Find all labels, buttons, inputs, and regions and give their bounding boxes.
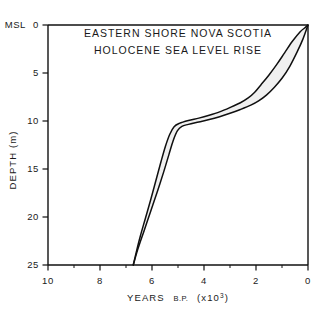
chart-title-line-2: HOLOCENE SEA LEVEL RISE	[94, 44, 262, 56]
y-tick-label-20: 20	[27, 211, 39, 222]
x-tick-label-10: 10	[42, 275, 54, 286]
y-axis-title: DEPTH (m)	[7, 131, 18, 190]
chart-figure: 1086420 0510152025 MSL DEPTH (m) YEARS B…	[0, 0, 328, 312]
y-tick-label-0: 0	[33, 19, 39, 30]
y-tick-label-10: 10	[27, 115, 39, 126]
x-tick-label-2: 2	[253, 275, 259, 286]
x-tick-label-8: 8	[97, 275, 103, 286]
y-tick-label-15: 15	[27, 163, 39, 174]
x-tick-label-4: 4	[201, 275, 207, 286]
msl-label: MSL	[5, 19, 26, 30]
x-tick-label-0: 0	[305, 275, 311, 286]
y-tick-label-25: 25	[27, 259, 39, 270]
x-axis-title: YEARS B.P. (x103)	[127, 292, 229, 304]
chart-title-line-1: EASTERN SHORE NOVA SCOTIA	[84, 27, 272, 39]
y-tick-label-5: 5	[33, 67, 39, 78]
x-tick-label-6: 6	[149, 275, 155, 286]
sea-level-rise-chart: 1086420 0510152025 MSL DEPTH (m) YEARS B…	[0, 0, 328, 312]
